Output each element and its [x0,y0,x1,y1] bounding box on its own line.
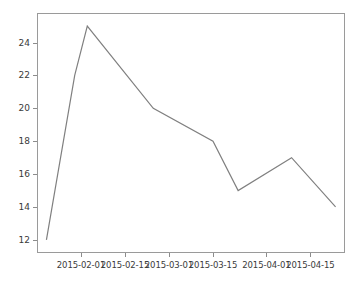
y-tick-label: 14 [8,202,30,212]
y-tick-label: 18 [8,136,30,146]
y-tick-mark [33,207,37,208]
y-tick-mark [33,174,37,175]
y-tick-mark [33,240,37,241]
x-tick-label: 2015-02-01 [57,260,105,270]
x-tick-label: 2015-04-15 [286,260,334,270]
y-tick-label: 22 [8,70,30,80]
x-tick-mark [213,253,214,257]
data-series-line [46,26,335,240]
y-tick-label: 24 [8,38,30,48]
data-line-layer [0,0,363,282]
figure-canvas: 12141618202224 2015-02-012015-02-152015-… [0,0,363,282]
x-tick-mark [266,253,267,257]
x-tick-label: 2015-04-01 [242,260,290,270]
y-tick-mark [33,75,37,76]
y-tick-label: 20 [8,103,30,113]
x-tick-label: 2015-03-15 [189,260,237,270]
x-tick-label: 2015-02-15 [101,260,149,270]
y-tick-label: 16 [8,169,30,179]
x-tick-mark [125,253,126,257]
y-tick-mark [33,43,37,44]
x-tick-mark [169,253,170,257]
x-tick-mark [310,253,311,257]
y-tick-mark [33,141,37,142]
y-tick-mark [33,108,37,109]
x-tick-mark [81,253,82,257]
y-tick-label: 12 [8,235,30,245]
x-tick-label: 2015-03-01 [145,260,193,270]
